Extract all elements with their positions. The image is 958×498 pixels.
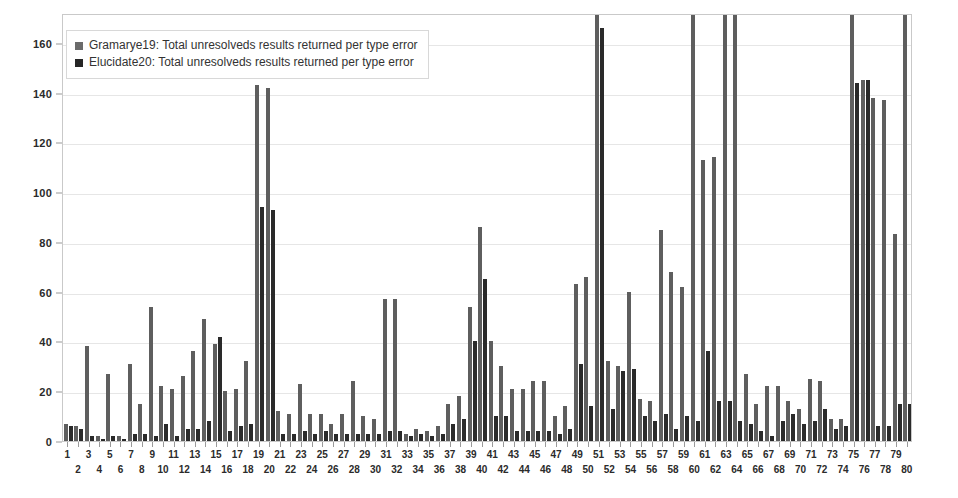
bar (271, 210, 275, 441)
bar-group (541, 15, 552, 441)
x-tick-label-30: 30 (370, 464, 381, 475)
x-tick-mark-31 (386, 442, 387, 447)
bar (553, 416, 557, 441)
x-tick-mark-48 (567, 442, 568, 447)
bar (818, 381, 822, 441)
bar-group (860, 15, 871, 441)
x-tick-mark-30 (375, 442, 376, 447)
bar (239, 426, 243, 441)
bar (791, 414, 795, 441)
x-tick-label-45: 45 (529, 449, 540, 460)
x-tick-label-25: 25 (317, 449, 328, 460)
y-tick-label-120: 120 (33, 137, 52, 149)
bar-group (775, 15, 786, 441)
x-tick-mark-14 (205, 442, 206, 447)
x-tick-label-19: 19 (253, 449, 264, 460)
x-tick-label-2: 2 (75, 464, 81, 475)
bar (191, 351, 195, 441)
bar (781, 421, 785, 441)
bar (611, 409, 615, 441)
bar (887, 426, 891, 441)
bar-group (764, 15, 775, 441)
x-tick-label-67: 67 (763, 449, 774, 460)
x-tick-mark-66 (758, 442, 759, 447)
x-tick-mark-18 (248, 442, 249, 447)
bar (589, 406, 593, 441)
bar (170, 389, 174, 441)
bar (903, 14, 907, 441)
bar-group (594, 15, 605, 441)
x-tick-mark-38 (460, 442, 461, 447)
y-tick-label-60: 60 (39, 287, 52, 299)
bar (468, 307, 472, 441)
x-tick-mark-1 (67, 442, 68, 447)
x-tick-label-57: 57 (657, 449, 668, 460)
x-tick-label-9: 9 (150, 449, 156, 460)
bar (218, 337, 222, 442)
bar (430, 436, 434, 441)
bar (536, 431, 540, 441)
bar (786, 401, 790, 441)
x-tick-label-61: 61 (699, 449, 710, 460)
bar (223, 391, 227, 441)
x-tick-mark-42 (503, 442, 504, 447)
x-tick-label-58: 58 (667, 464, 678, 475)
bar (313, 434, 317, 441)
x-tick-label-63: 63 (721, 449, 732, 460)
bar (244, 361, 248, 441)
x-tick-mark-9 (152, 442, 153, 447)
x-tick-label-77: 77 (869, 449, 880, 460)
x-tick-mark-26 (333, 442, 334, 447)
x-tick-mark-72 (822, 442, 823, 447)
bar-group (796, 15, 807, 441)
x-tick-label-32: 32 (391, 464, 402, 475)
x-tick-mark-70 (800, 442, 801, 447)
x-tick-label-15: 15 (211, 449, 222, 460)
bar (494, 416, 498, 441)
bar (754, 404, 758, 441)
bar-group (786, 15, 797, 441)
bar (797, 409, 801, 441)
x-tick-mark-41 (492, 442, 493, 447)
x-tick-mark-57 (662, 442, 663, 447)
y-tick-label-100: 100 (33, 187, 52, 199)
x-tick-mark-60 (694, 442, 695, 447)
bar (823, 409, 827, 441)
bar (638, 399, 642, 441)
legend-swatch-icon-gramarye19 (75, 42, 83, 50)
x-tick-mark-73 (832, 442, 833, 447)
x-tick-label-51: 51 (593, 449, 604, 460)
bar (616, 366, 620, 441)
bar-group (871, 15, 882, 441)
x-tick-label-13: 13 (189, 449, 200, 460)
x-tick-label-79: 79 (891, 449, 902, 460)
bar-group (807, 15, 818, 441)
bar (122, 439, 126, 441)
x-tick-mark-29 (365, 442, 366, 447)
bar (744, 374, 748, 441)
x-tick-label-10: 10 (157, 464, 168, 475)
bar-group (637, 15, 648, 441)
x-tick-mark-43 (514, 442, 515, 447)
x-tick-label-21: 21 (274, 449, 285, 460)
bar (839, 419, 843, 441)
bar (547, 431, 551, 441)
bar-group (584, 15, 595, 441)
bar (329, 424, 333, 441)
bar (473, 341, 477, 441)
x-tick-mark-39 (471, 442, 472, 447)
x-tick-mark-22 (290, 442, 291, 447)
x-tick-mark-47 (556, 442, 557, 447)
bar (706, 351, 710, 441)
bar (691, 14, 695, 441)
bar (451, 424, 455, 441)
x-tick-mark-77 (875, 442, 876, 447)
bar (96, 436, 100, 441)
chart-legend: Gramarye19: Total unresolveds results re… (66, 30, 429, 79)
bar (207, 421, 211, 441)
x-tick-label-1: 1 (65, 449, 71, 460)
chart-root: 020406080100120140160 123456789101112131… (0, 0, 958, 498)
x-tick-mark-19 (259, 442, 260, 447)
bar-group (499, 15, 510, 441)
x-tick-mark-37 (450, 442, 451, 447)
